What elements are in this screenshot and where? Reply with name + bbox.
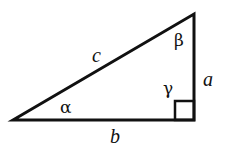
angle-label-beta: β bbox=[174, 30, 184, 50]
angle-label-gamma: γ bbox=[163, 78, 173, 98]
right-triangle-diagram: c a b α β γ bbox=[0, 0, 227, 152]
right-angle-marker bbox=[175, 101, 194, 120]
side-label-a: a bbox=[203, 68, 213, 90]
side-label-b: b bbox=[110, 125, 120, 147]
side-label-c: c bbox=[92, 44, 101, 66]
triangle-outline bbox=[13, 14, 194, 120]
angle-label-alpha: α bbox=[60, 97, 72, 117]
